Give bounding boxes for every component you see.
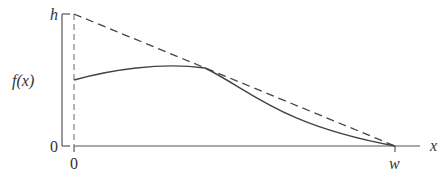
x-tick-label-0: 0 [70, 156, 78, 172]
x-axis-label: x [430, 138, 437, 154]
y-axis-label: f(x) [12, 73, 34, 89]
fx-curve [74, 66, 395, 146]
dashed-bound-line [74, 14, 395, 146]
y-tick-label-0: 0 [50, 139, 58, 155]
y-tick-label-h: h [50, 7, 58, 23]
x-tick-label-w: w [389, 156, 400, 172]
diagram-canvas [0, 0, 447, 178]
